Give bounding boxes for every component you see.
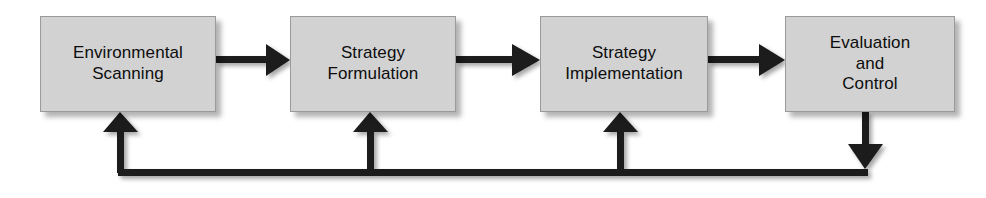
stage-label-strategy-implementation: Strategy Implementation [561, 43, 687, 84]
arrow-scanning-to-formulation [216, 44, 290, 76]
stage-box-strategy-formulation[interactable]: Strategy Formulation [290, 16, 456, 112]
stage-box-strategy-implementation[interactable]: Strategy Implementation [540, 16, 708, 112]
stage-box-evaluation-and-control[interactable]: Evaluation and Control [785, 16, 955, 112]
stage-box-environmental-scanning[interactable]: Environmental Scanning [40, 16, 216, 112]
feedback-stem-from-evaluation [848, 112, 883, 169]
feedback-arrow-to-scanning [103, 112, 138, 173]
feedback-bus-line [118, 169, 868, 176]
arrow-implementation-to-evaluation [708, 44, 785, 76]
feedback-arrow-to-formulation [353, 112, 388, 173]
stage-label-strategy-formulation: Strategy Formulation [324, 43, 423, 84]
arrow-formulation-to-implementation [456, 44, 540, 76]
feedback-arrow-to-implementation [603, 112, 638, 173]
strategic-management-process-diagram: Environmental Scanning Strategy Formulat… [0, 0, 986, 198]
stage-label-environmental-scanning: Environmental Scanning [69, 43, 187, 84]
stage-label-evaluation-and-control: Evaluation and Control [826, 33, 914, 95]
